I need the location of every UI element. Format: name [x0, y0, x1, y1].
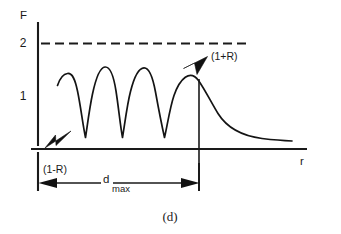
fringe-visibility-curve — [58, 67, 293, 141]
figure-caption: (d) — [162, 209, 177, 224]
upper-limit-label: (1+R) — [211, 50, 238, 62]
lower-limit-pointer-group — [45, 131, 71, 148]
dimension-left-arrow-icon — [39, 178, 58, 188]
y-tick-label-1: 1 — [20, 89, 27, 103]
upper-limit-pointer-group — [184, 57, 208, 75]
lower-limit-arrow-icon — [45, 131, 71, 148]
dimension-sublabel: max — [112, 183, 130, 194]
figure-container: F r 2 1 (1+R) (1-R) — [0, 0, 341, 234]
dimension-label: d — [103, 173, 109, 185]
lower-limit-label: (1-R) — [43, 163, 67, 175]
figure-svg: F r 2 1 (1+R) (1-R) — [0, 0, 341, 234]
upper-limit-arrow-icon — [184, 57, 208, 75]
dimension-right-arrow-icon — [181, 178, 200, 188]
y-tick-label-2: 2 — [20, 36, 27, 50]
x-axis-label: r — [300, 155, 304, 167]
y-axis-label: F — [20, 9, 27, 21]
